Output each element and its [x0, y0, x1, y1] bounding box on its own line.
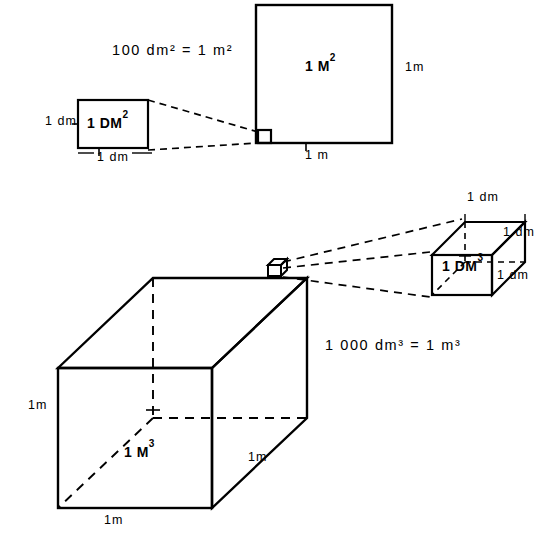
volume-equation-text: 1 000 dm³ = 1 m³	[325, 337, 461, 353]
inset-square-marker	[258, 130, 271, 143]
large-cube-hidden-diagonal-edge	[58, 418, 153, 508]
small-cube-right-label: 1 dm	[503, 225, 535, 239]
small-cube-bottom-right-label: 1 dm	[497, 268, 529, 282]
large-cube-face-label-text: 1 M	[124, 444, 149, 460]
large-square-bottom-label: 1 m	[305, 148, 329, 162]
small-cube-top-label-text: 1 dm	[467, 190, 499, 204]
small-cube-right-label-text: 1 dm	[503, 225, 535, 239]
small-cube-face-label: 1 DM3	[442, 258, 484, 274]
projection-line-area-top	[148, 100, 258, 132]
small-cube-top-label: 1 dm	[467, 190, 499, 204]
large-square-right-label: 1m	[405, 60, 424, 74]
large-square-right-label-text: 1m	[405, 60, 424, 74]
large-cube-face-label: 1 M3	[124, 444, 155, 460]
small-square-bottom-label: 1 dm	[97, 150, 129, 164]
large-square-bottom-label-text: 1 m	[305, 148, 329, 162]
small-square-face-label-exp: 2	[122, 109, 128, 120]
large-square-face-label: 1 M2	[305, 58, 336, 74]
small-cube-bottom-right-label-text: 1 dm	[497, 268, 529, 282]
large-square-face-label-text: 1 M	[305, 58, 330, 74]
large-cube-bottom-label: 1m	[104, 513, 123, 527]
area-equation-text: 100 dm² = 1 m²	[112, 42, 233, 58]
small-square-left-label: 1 dm	[45, 114, 77, 128]
large-cube-top-face	[58, 278, 307, 368]
large-square-1m2	[256, 5, 392, 143]
small-cube-face-label-text: 1 DM	[442, 258, 477, 274]
small-square-face-label-text: 1 DM	[87, 115, 122, 131]
large-cube-face-label-exp: 3	[149, 438, 155, 449]
volume-equation: 1 000 dm³ = 1 m³	[325, 337, 461, 353]
large-cube-bottom-label-text: 1m	[104, 513, 123, 527]
small-cube-face-label-exp: 3	[477, 252, 483, 263]
projection-line-area-bottom	[148, 143, 258, 150]
large-cube-right-label: 1m	[248, 450, 267, 464]
inset-cube-front	[268, 265, 281, 276]
small-square-left-label-text: 1 dm	[45, 114, 77, 128]
large-cube-left-label: 1m	[28, 398, 47, 412]
projection-line-volume-middle	[283, 252, 430, 268]
large-square-face-label-exp: 2	[330, 52, 336, 63]
small-square-bottom-label-text: 1 dm	[97, 150, 129, 164]
area-equation: 100 dm² = 1 m²	[112, 42, 233, 58]
small-square-face-label: 1 DM2	[87, 115, 129, 131]
large-cube-right-label-text: 1m	[248, 450, 267, 464]
large-cube-left-label-text: 1m	[28, 398, 47, 412]
large-cube-right-face	[212, 278, 307, 508]
diagram-vector-layer	[0, 0, 552, 554]
metric-units-diagram: 100 dm² = 1 m² 1 dm 1 dm 1 DM2 1m 1 m 1 …	[0, 0, 552, 554]
